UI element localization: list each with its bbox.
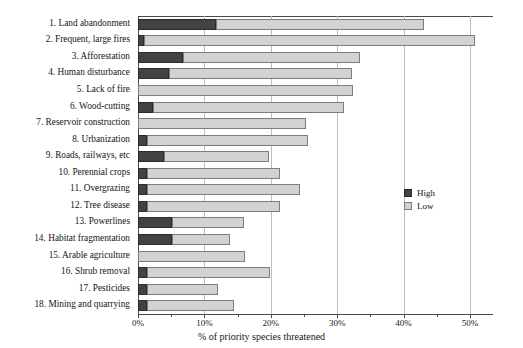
bar-segment-low <box>147 184 300 195</box>
legend-item-low: Low <box>404 199 435 212</box>
bar-segment-low <box>147 300 233 311</box>
bar-row <box>138 118 470 129</box>
bar-segment-high <box>138 184 147 195</box>
category-label: 17. Pesticides <box>79 283 130 293</box>
bar-row <box>138 251 470 262</box>
bar-segment-high <box>138 217 172 228</box>
x-minor-tick-15 <box>238 314 239 317</box>
bar-segment-low <box>164 151 269 162</box>
bar-row <box>138 284 470 295</box>
bar-segment-low <box>169 68 352 79</box>
x-tick-label-10%: 10% <box>196 318 213 328</box>
bar-segment-low <box>147 284 217 295</box>
bar-row <box>138 52 470 63</box>
x-axis-title: % of priority species threatened <box>0 331 523 342</box>
category-label: 6. Wood-cutting <box>70 101 130 111</box>
bar-segment-low <box>153 102 344 113</box>
bar-segment-high <box>138 102 153 113</box>
bar-row <box>138 267 470 278</box>
category-label: 8. Urbanization <box>72 134 130 144</box>
legend-item-high: High <box>404 186 435 199</box>
category-label: 18. Mining and quarrying <box>34 299 130 309</box>
bar-row <box>138 85 470 96</box>
category-label: 5. Lack of fire <box>77 84 130 94</box>
x-tick-label-50%: 50% <box>462 318 479 328</box>
bar-row <box>138 168 470 179</box>
bar-row <box>138 68 470 79</box>
x-minor-tick-35 <box>370 314 371 317</box>
x-tick-label-30%: 30% <box>329 318 346 328</box>
bar-segment-high <box>138 234 172 245</box>
category-label: 16. Shrub removal <box>61 266 130 276</box>
bar-row <box>138 217 470 228</box>
x-axis-line <box>138 314 493 315</box>
x-tick-label-40%: 40% <box>395 318 412 328</box>
bar-row <box>138 19 470 30</box>
category-label: 3. Afforestation <box>72 51 130 61</box>
bar-segment-high <box>138 68 169 79</box>
bar-segment-low <box>138 118 306 129</box>
x-minor-tick-45 <box>437 314 438 317</box>
bar-segment-low <box>172 217 244 228</box>
bar-segment-low <box>147 135 308 146</box>
bar-segment-high <box>138 300 147 311</box>
bar-segment-high <box>138 19 216 30</box>
category-label: 2. Frequent, large fires <box>46 34 130 44</box>
x-tick-label-0%: 0% <box>132 318 144 328</box>
gridline-50% <box>470 16 471 314</box>
x-tick-label-20%: 20% <box>263 318 280 328</box>
bar-segment-low <box>144 35 475 46</box>
bar-row <box>138 151 470 162</box>
bar-segment-low <box>138 251 245 262</box>
category-label: 9. Roads, railways, etc <box>46 150 130 160</box>
category-label: 11. Overgrazing <box>70 183 130 193</box>
bar-row <box>138 35 470 46</box>
legend-swatch-high-icon <box>404 189 412 197</box>
bar-segment-high <box>138 284 147 295</box>
x-minor-tick-25 <box>304 314 305 317</box>
threat-category-bar-chart: 1. Land abandonment2. Frequent, large fi… <box>0 0 523 348</box>
bar-row <box>138 234 470 245</box>
category-label: 13. Powerlines <box>75 216 130 226</box>
bar-row <box>138 102 470 113</box>
chart-legend: High Low <box>404 186 435 212</box>
bar-segment-low <box>216 19 423 30</box>
bar-segment-low <box>147 168 280 179</box>
category-label: 1. Land abandonment <box>49 18 130 28</box>
bar-row <box>138 300 470 311</box>
legend-label-low: Low <box>417 201 434 211</box>
bar-segment-low <box>183 52 360 63</box>
bar-segment-low <box>147 267 270 278</box>
bar-segment-low <box>147 201 280 212</box>
bar-segment-high <box>138 168 147 179</box>
x-minor-tick-5 <box>171 314 172 317</box>
category-label: 15. Arable agriculture <box>49 250 130 260</box>
category-label: 14. Habitat fragmentation <box>34 233 130 243</box>
bar-row <box>138 135 470 146</box>
bar-segment-low <box>172 234 230 245</box>
bar-segment-high <box>138 135 147 146</box>
category-label: 12. Tree disease <box>70 200 130 210</box>
bar-segment-low <box>138 85 353 96</box>
category-label: 4. Human disturbance <box>48 67 130 77</box>
bar-segment-high <box>138 201 147 212</box>
legend-swatch-low-icon <box>404 202 412 210</box>
category-label: 7. Reservoir construction <box>36 117 130 127</box>
category-label-column: 1. Land abandonment2. Frequent, large fi… <box>0 16 134 314</box>
legend-label-high: High <box>417 188 435 198</box>
bar-segment-high <box>138 267 147 278</box>
plot-area <box>138 16 470 314</box>
bar-segment-high <box>138 151 164 162</box>
bar-segment-high <box>138 52 183 63</box>
category-label: 10. Perennial crops <box>58 167 130 177</box>
